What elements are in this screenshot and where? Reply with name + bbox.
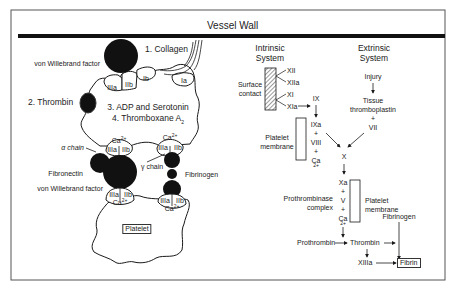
iiia-middle-right: IIIa — [158, 144, 168, 152]
factor-v: V — [339, 196, 348, 205]
factor-xi: XI — [287, 91, 294, 99]
fibrinogen-bead-1 — [164, 152, 180, 168]
intrinsic-title-line1: Intrinsic — [255, 43, 284, 53]
factor-ixa: IXa — [311, 120, 322, 129]
iib-middle-right: IIb — [174, 144, 182, 152]
ca-text: Ca — [163, 134, 172, 141]
extrinsic-title-line1: Extrinsic — [358, 43, 390, 53]
ca-text: Ca — [165, 205, 174, 212]
membrane-line1: Platelet — [365, 197, 388, 204]
fibronectin-label: Fibronectin — [48, 170, 83, 178]
platelet-membrane-label-2: Platelet membrane — [365, 196, 398, 214]
prothrombinase-line1: Prothrombinase — [284, 195, 333, 202]
ca-text: Ca — [113, 199, 122, 206]
thromboxane-text: 4. Thromboxane A — [112, 113, 181, 123]
extrinsic-title-line2: System — [358, 53, 390, 63]
tissue-line2: thromboplastin — [350, 105, 396, 114]
vwf-bottom-circle — [103, 155, 137, 189]
extrinsic-title: Extrinsic System — [358, 43, 390, 63]
calcium-ion: Ca2+ — [339, 214, 348, 223]
plus: + — [339, 205, 348, 214]
membrane-line2: membrane — [260, 142, 293, 151]
tissue-line1: Tissue — [350, 96, 396, 105]
fibrinogen-left-label: Fibrinogen — [185, 171, 218, 179]
factor-vii: VII — [350, 123, 396, 132]
plus: + — [311, 147, 322, 156]
fibrinogen-bead-2 — [167, 169, 177, 179]
factor-xia: XIa — [287, 103, 298, 111]
ca-sup: 2+ — [121, 135, 127, 141]
factor-ix: IX — [313, 95, 320, 103]
vessel-wall-title: Vessel Wall — [207, 20, 258, 32]
ca-sup: 2+ — [174, 203, 180, 209]
injury-label: Injury — [364, 73, 381, 81]
surface-line1: Surface — [238, 80, 262, 89]
gamma-chain-label: γ chain — [141, 163, 163, 171]
ca-sup: 2+ — [172, 132, 178, 138]
surface-contact-label: Surface contact — [238, 80, 262, 98]
calcium-ion: Ca2+ — [311, 156, 322, 165]
fibrin-label: Fibrin — [397, 258, 421, 268]
prothrombin-label: Prothrombin — [297, 239, 335, 247]
factor-xii: XII — [287, 67, 296, 75]
iiia-middle-left: IIIa — [107, 146, 117, 154]
receptor-ib: Ib — [143, 75, 149, 83]
prothrombinase-line2: complex — [307, 204, 333, 211]
platelet-membrane-box-1 — [296, 118, 306, 160]
receptor-iib-top: IIb — [125, 81, 133, 89]
factor-viii: VIII — [311, 138, 322, 147]
surface-contact-hatch — [265, 68, 276, 110]
membrane-line2: membrane — [365, 206, 398, 213]
ca-sup: 2+ — [122, 197, 128, 203]
vwf-top-label: von Willebrand factor — [34, 60, 100, 68]
factor-x: X — [342, 153, 347, 161]
plus: + — [311, 129, 322, 138]
ca-text: Ca — [112, 137, 121, 144]
thrombin-oval — [80, 93, 96, 113]
factor-xa: Xa — [339, 178, 348, 187]
fibrinogen-right-label: Fibrinogen — [382, 213, 415, 221]
iiia-bottom-right: IIIa — [160, 197, 170, 205]
factor-xiia: XIIa — [287, 79, 299, 87]
intrinsic-complex: IXa + VIII + Ca2+ — [311, 120, 322, 165]
prothrombinase-components: Xa + V + Ca2+ — [339, 178, 348, 223]
membrane-line1: Platelet — [260, 133, 293, 142]
thrombin-label: 2. Thrombin — [28, 97, 73, 107]
thromboxane-label: 4. Thromboxane A2 — [112, 113, 184, 123]
vwf-top-circle — [104, 39, 138, 73]
iib-middle-left: IIb — [122, 146, 130, 154]
ca-middle-right: Ca2+ — [163, 134, 178, 142]
vwf-bottom-label: von Willebrand factor — [37, 185, 103, 193]
alpha-chain-label: α chain — [61, 144, 84, 152]
plus: + — [350, 114, 396, 123]
iiia-bottom-left: IIIa — [109, 191, 119, 199]
collagen-label: 1. Collagen — [145, 44, 188, 54]
vessel-wall-line — [18, 34, 445, 38]
tissue-thromboplastin: Tissue thromboplastin + VII — [350, 96, 396, 132]
intrinsic-title-line2: System — [255, 53, 284, 63]
receptor-ia: Ia — [181, 77, 187, 85]
ca-middle-left: Ca2+ — [112, 137, 127, 145]
thromboxane-sub: 2 — [181, 119, 184, 125]
platelet-membrane-label-1: Platelet membrane — [260, 133, 293, 151]
surface-contact-lines — [276, 70, 286, 106]
surface-line2: contact — [238, 89, 262, 98]
platelet-membrane-box-2 — [350, 180, 360, 222]
platelet-label: Platelet — [122, 224, 151, 234]
intrinsic-title: Intrinsic System — [255, 43, 284, 63]
xiiia-label: XIIIa — [358, 259, 372, 267]
adp-label: 3. ADP and Serotonin — [107, 102, 189, 112]
ca-bottom-right: Ca2+ — [165, 205, 180, 213]
prothrombinase-label: Prothrombinase complex — [284, 194, 333, 212]
receptor-iiia-top: IIIa — [107, 84, 117, 92]
plus: + — [339, 187, 348, 196]
thrombin-right-label: Thrombin — [350, 239, 380, 247]
ca-bottom-left: Ca2+ — [113, 199, 128, 207]
